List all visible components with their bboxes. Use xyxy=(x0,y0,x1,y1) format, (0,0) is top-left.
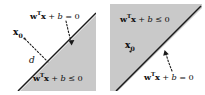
point-marker-x0-right xyxy=(129,50,131,52)
distance-segment-d xyxy=(25,39,48,62)
panel-right: wTx + b ≤ 0 x0 wTx + b = 0 xyxy=(110,4,202,91)
shaded-region-left xyxy=(20,15,96,91)
panel-left: wTx + b = 0 x0 d wTx + b ≤ 0 xyxy=(4,4,96,91)
shaded-region-right xyxy=(110,4,202,91)
hyperplane-figure: wTx + b = 0 x0 d wTx + b ≤ 0 wTx + b ≤ 0 xyxy=(0,0,205,95)
boundary-callout-right xyxy=(163,50,172,71)
